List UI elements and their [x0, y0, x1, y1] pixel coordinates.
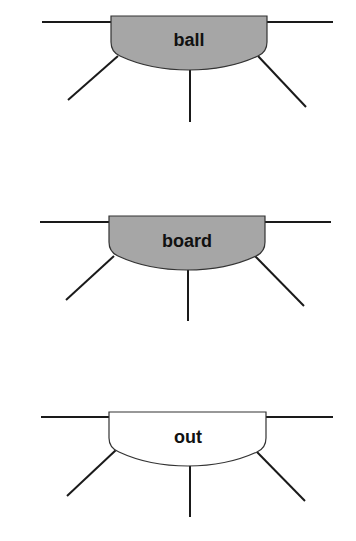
node-board: board	[40, 216, 331, 321]
node-label: board	[162, 231, 212, 251]
node-label: ball	[173, 30, 204, 50]
right-diagonal-line	[255, 256, 304, 306]
node-out: out	[41, 412, 333, 517]
right-diagonal-line	[258, 56, 306, 107]
left-diagonal-line	[67, 450, 116, 496]
left-diagonal-line	[66, 256, 114, 300]
left-diagonal-line	[68, 56, 118, 100]
node-label: out	[174, 427, 202, 447]
diagram-canvas: ball board out	[0, 0, 356, 541]
right-diagonal-line	[256, 451, 305, 501]
node-ball: ball	[42, 16, 333, 122]
